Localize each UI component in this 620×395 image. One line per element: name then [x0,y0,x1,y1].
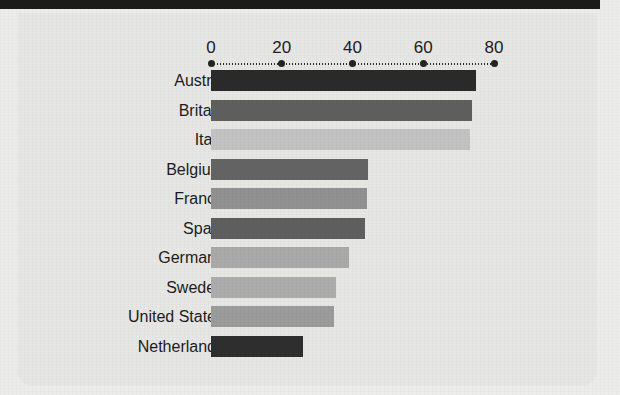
bar-series: AustriaBritainItalyBelgiumFranceSpainGer… [18,14,596,385]
bar-rect [211,277,336,298]
bar-rect [211,188,367,209]
bar-row: Sweden [18,277,596,298]
bar-row: France [18,188,596,209]
bar-row: Austria [18,70,596,91]
bar-row: Netherlands [18,336,596,357]
bar-rect [211,306,334,327]
chart-page: the Nethin illusurianustermulontalermuel… [0,0,620,395]
bar-row: Britain [18,100,596,121]
bar-rect [211,129,470,150]
bar-row: United States [18,306,596,327]
bar-rect [211,70,476,91]
bar-rect [211,218,365,239]
bar-rect [211,100,472,121]
bar-row: Belgium [18,159,596,180]
bar-row: Italy [18,129,596,150]
chart-panel: 020406080 AustriaBritainItalyBelgiumFran… [18,14,596,385]
top-black-band [0,0,600,9]
bar-row: Germany [18,247,596,268]
bar-rect [211,159,368,180]
bar-row: Spain [18,218,596,239]
plot-area: 020406080 AustriaBritainItalyBelgiumFran… [18,14,596,385]
bar-rect [211,247,349,268]
bar-rect [211,336,303,357]
bar-category-label: United States [128,306,224,327]
